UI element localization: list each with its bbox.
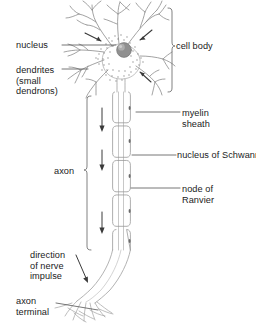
label-axon: axon bbox=[54, 166, 74, 177]
cell-body-bracket bbox=[168, 8, 175, 92]
leader-lines bbox=[56, 45, 180, 310]
direction-arrow bbox=[76, 255, 88, 283]
axon-with-myelin bbox=[113, 79, 131, 250]
nucleus-sphere bbox=[117, 43, 132, 58]
label-node-of-ranvier: node of Ranvier bbox=[182, 184, 214, 205]
impulse-arrows bbox=[99, 108, 104, 234]
label-nucleus-of-schwann-cell: nucleus of Schwann cell bbox=[177, 150, 256, 161]
label-cell-body: cell body bbox=[176, 41, 213, 52]
label-dendrites: dendrites (small dendrons) bbox=[16, 65, 58, 97]
label-direction-of-nerve-impulse: direction of nerve impulse bbox=[30, 250, 65, 282]
label-nucleus: nucleus bbox=[16, 40, 48, 51]
label-axon-terminal: axon terminal bbox=[16, 296, 49, 317]
neuron-diagram-canvas: nucleus dendrites (small dendrons) cell … bbox=[0, 0, 256, 335]
label-myelin-sheath: myelin sheath bbox=[182, 108, 210, 129]
axon-bracket bbox=[84, 96, 91, 250]
